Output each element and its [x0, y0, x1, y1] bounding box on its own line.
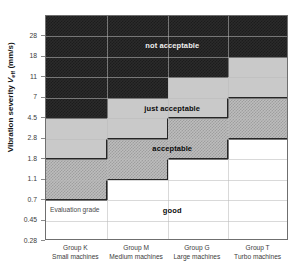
y-tick-4p5: 4.5 — [28, 114, 41, 121]
x-group-name: Group M — [106, 243, 167, 252]
y-tick-mark — [41, 240, 45, 241]
y-tick-mark — [41, 199, 45, 200]
x-group-sublabel: Turbo machines — [227, 252, 288, 261]
y-tick-mark — [41, 56, 45, 57]
x-group-label-k: Group KSmall machines — [45, 243, 106, 261]
y-tick-28: 28 — [29, 32, 41, 39]
y-tick-7: 7 — [33, 93, 41, 100]
x-group-sublabel: Small machines — [45, 252, 106, 261]
y-tick-0p28: 0.28 — [24, 237, 41, 244]
y-tick-mark — [41, 179, 45, 180]
vibration-severity-chart: Vibration severity Veff (mm/s) 28181174.… — [0, 0, 293, 273]
y-tick-0p7: 0.7 — [28, 196, 41, 203]
gridline-vertical — [107, 16, 108, 239]
y-tick-18: 18 — [29, 52, 41, 59]
y-tick-mark — [41, 158, 45, 159]
x-group-sublabel: Large machines — [167, 252, 228, 261]
y-tick-0p45: 0.45 — [24, 216, 41, 223]
y-tick-11: 11 — [30, 73, 41, 80]
y-tick-mark — [41, 138, 45, 139]
x-axis-group-labels: Group KSmall machinesGroup MMedium machi… — [45, 243, 288, 261]
y-tick-mark — [41, 220, 45, 221]
y-axis-tick-labels: 28181174.52.81.81.10.70.450.28 — [0, 0, 41, 273]
zone-label-acceptable: acceptable — [152, 144, 192, 153]
x-group-sublabel: Medium machines — [106, 252, 167, 261]
plot-area: not acceptable just acceptable acceptabl… — [45, 15, 288, 240]
zone-label-not-acceptable: not acceptable — [145, 41, 199, 50]
x-group-name: Group T — [227, 243, 288, 252]
y-tick-mark — [41, 97, 45, 98]
y-tick-1p1: 1.1 — [28, 175, 41, 182]
y-tick-2p8: 2.8 — [28, 134, 41, 141]
x-group-label-m: Group MMedium machines — [106, 243, 167, 261]
x-group-label-g: Group GLarge machines — [167, 243, 228, 261]
y-tick-1p8: 1.8 — [28, 155, 41, 162]
y-tick-mark — [41, 35, 45, 36]
zone-label-just-acceptable: just acceptable — [144, 104, 200, 113]
y-tick-mark — [41, 76, 45, 77]
x-group-name: Group K — [45, 243, 106, 252]
evaluation-grade-label: Evaluation grade — [50, 206, 100, 213]
y-tick-mark — [41, 117, 45, 118]
gridline-vertical — [228, 16, 229, 239]
x-group-name: Group G — [167, 243, 228, 252]
zone-label-good: good — [163, 206, 182, 215]
x-group-label-t: Group TTurbo machines — [227, 243, 288, 261]
